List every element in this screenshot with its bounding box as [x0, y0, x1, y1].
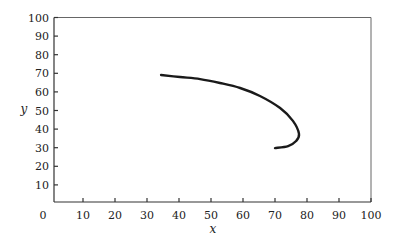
y-tick-label: 80 [35, 49, 49, 62]
x-tick-label: 60 [236, 209, 250, 222]
plot-frame [54, 18, 371, 203]
y-tick-label: 100 [28, 12, 49, 25]
y-tick-label: 50 [35, 105, 49, 118]
y-tick-label: 60 [35, 86, 49, 99]
x-tick-label: 70 [268, 209, 282, 222]
y-tick-label: 40 [35, 123, 49, 136]
y-tick-label: 90 [35, 30, 49, 43]
series-line-trajectory [161, 75, 299, 148]
x-tick-label: 100 [361, 209, 382, 222]
x-tick-label: 20 [108, 209, 122, 222]
x-tick-label: 0 [40, 209, 47, 222]
y-axis-label: y [20, 102, 28, 116]
y-tick-label: 30 [35, 142, 49, 155]
x-axis-label: x [210, 222, 217, 236]
x-tick-label: 10 [76, 209, 90, 222]
y-tick-label: 20 [35, 160, 49, 173]
series-group [161, 75, 299, 148]
y-tick-label: 70 [35, 67, 49, 80]
y-tick-label: 10 [35, 179, 49, 192]
x-tick-label: 80 [300, 209, 314, 222]
x-tick-label: 90 [332, 209, 346, 222]
chart: 0102030405060708090100 10203040506070809… [0, 0, 397, 244]
x-tick-label: 50 [204, 209, 218, 222]
x-tick-label: 30 [140, 209, 154, 222]
x-tick-label: 40 [172, 209, 186, 222]
